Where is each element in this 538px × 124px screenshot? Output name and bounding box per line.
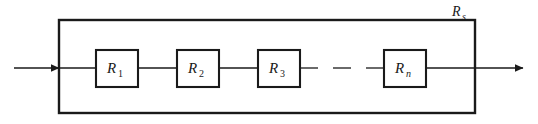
resistor-r1-box — [96, 50, 138, 87]
resistor-rn-box — [384, 50, 426, 87]
resistor-r1-label-base: R — [106, 60, 116, 76]
resistor-r2-label-subscript: 2 — [199, 68, 204, 79]
circuit-diagram-figure: R s R 1 R 2 — [0, 0, 538, 124]
resistor-rn: R n — [384, 50, 426, 87]
resistor-r3: R 3 — [258, 50, 300, 87]
resistor-r3-label-subscript: 3 — [280, 68, 285, 79]
resistor-r3-box — [258, 50, 300, 87]
resistor-r1-label-subscript: 1 — [118, 68, 123, 79]
resistor-r2-box — [177, 50, 219, 87]
resistor-r3-label-base: R — [268, 60, 278, 76]
outer-box-label-base: R — [451, 4, 461, 19]
resistor-rn-label-subscript: n — [406, 68, 411, 79]
diagram-canvas: R s R 1 R 2 — [0, 0, 538, 124]
resistor-rn-label-base: R — [394, 60, 404, 76]
resistor-r2: R 2 — [177, 50, 219, 87]
outer-box-label-subscript: s — [462, 11, 466, 22]
resistor-r1: R 1 — [96, 50, 138, 87]
resistor-r2-label-base: R — [187, 60, 197, 76]
